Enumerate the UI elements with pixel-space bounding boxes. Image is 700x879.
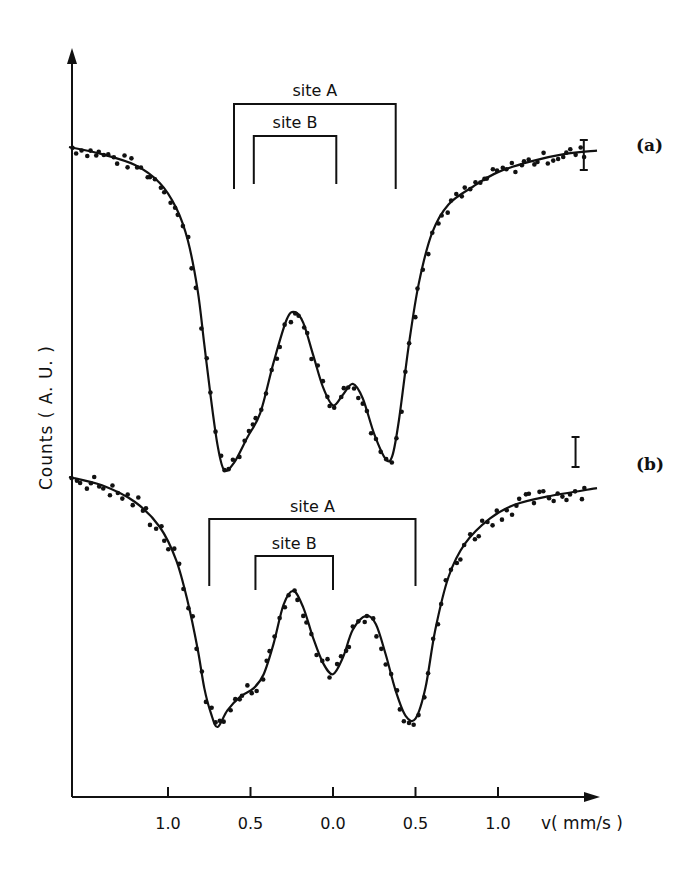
data-point: [580, 497, 585, 502]
fit-curve: [69, 147, 597, 471]
data-point: [177, 562, 182, 567]
data-point: [430, 230, 435, 235]
data-point: [426, 671, 431, 676]
data-point: [573, 489, 578, 494]
data-point: [226, 467, 231, 472]
data-point: [253, 416, 258, 421]
site-a-label: site A: [290, 497, 335, 516]
data-point: [219, 453, 224, 458]
data-point: [421, 267, 426, 272]
data-point: [495, 168, 500, 173]
y-axis-arrow-icon: [67, 48, 77, 64]
site-b-label: site B: [273, 113, 318, 132]
data-point: [390, 460, 395, 465]
data-point: [148, 175, 153, 180]
data-point: [547, 496, 552, 501]
data-point: [485, 520, 490, 525]
data-point: [436, 221, 441, 226]
data-point: [162, 538, 167, 543]
data-point: [240, 693, 245, 698]
data-point: [455, 561, 460, 566]
data-point: [190, 614, 195, 619]
data-point: [96, 149, 101, 154]
data-point: [277, 345, 282, 350]
data-point: [546, 161, 551, 166]
data-point: [449, 198, 454, 203]
data-point: [480, 518, 485, 523]
data-point: [181, 587, 186, 592]
data-point: [573, 153, 578, 158]
data-point: [315, 363, 320, 368]
data-point: [204, 356, 209, 361]
x-axis-arrow-icon: [584, 792, 600, 802]
data-point: [264, 391, 269, 396]
data-point: [88, 148, 93, 153]
data-point: [275, 357, 280, 362]
data-point: [154, 526, 159, 531]
data-point: [153, 177, 158, 182]
data-point: [189, 266, 194, 271]
data-point: [369, 431, 374, 436]
panel-label-b: (b): [636, 454, 664, 474]
data-point: [332, 405, 337, 410]
data-point: [445, 210, 450, 215]
data-point: [272, 634, 277, 639]
data-point: [186, 606, 191, 611]
data-point: [473, 180, 478, 185]
spectrum-b: site Asite B: [69, 437, 597, 727]
data-point: [371, 616, 376, 621]
data-point: [85, 154, 90, 159]
data-point: [407, 721, 412, 726]
data-point: [325, 657, 330, 662]
data-point: [415, 286, 420, 291]
data-point: [513, 170, 518, 175]
data-point: [510, 161, 515, 166]
data-point: [208, 390, 213, 395]
data-point: [476, 534, 481, 539]
data-point: [436, 622, 441, 627]
data-point: [403, 370, 408, 375]
data-point: [295, 598, 300, 603]
data-point: [175, 213, 180, 218]
data-point: [116, 491, 121, 496]
data-point: [402, 719, 407, 724]
data-point: [490, 523, 495, 528]
data-point: [89, 481, 94, 486]
data-point: [221, 719, 226, 724]
data-point: [443, 578, 448, 583]
data-point: [172, 546, 177, 551]
data-point: [173, 205, 178, 210]
data-point: [181, 224, 186, 229]
data-point: [129, 156, 134, 161]
data-point: [162, 190, 167, 195]
data-point: [282, 322, 287, 327]
x-tick-label: 1.0: [485, 814, 510, 833]
data-point: [413, 315, 418, 320]
data-point: [321, 379, 326, 384]
data-point: [304, 620, 309, 625]
data-point: [568, 492, 573, 497]
data-point: [269, 368, 274, 373]
data-point: [159, 524, 164, 529]
data-point: [379, 647, 384, 652]
data-point: [110, 483, 115, 488]
data-point: [439, 213, 444, 218]
data-point: [582, 486, 587, 491]
data-point: [556, 157, 561, 162]
data-point: [356, 396, 361, 401]
data-point: [194, 647, 199, 652]
data-point: [514, 503, 519, 508]
data-point: [520, 163, 525, 168]
data-point: [108, 493, 113, 498]
data-point: [578, 145, 583, 150]
data-point: [78, 481, 83, 486]
site-b-bracket: [254, 136, 336, 184]
data-point: [356, 619, 361, 624]
data-point: [125, 165, 130, 170]
data-point: [351, 624, 356, 629]
data-point: [458, 557, 463, 562]
data-point: [342, 386, 347, 391]
data-point: [204, 700, 209, 705]
data-point: [431, 637, 436, 642]
data-point: [560, 494, 565, 499]
